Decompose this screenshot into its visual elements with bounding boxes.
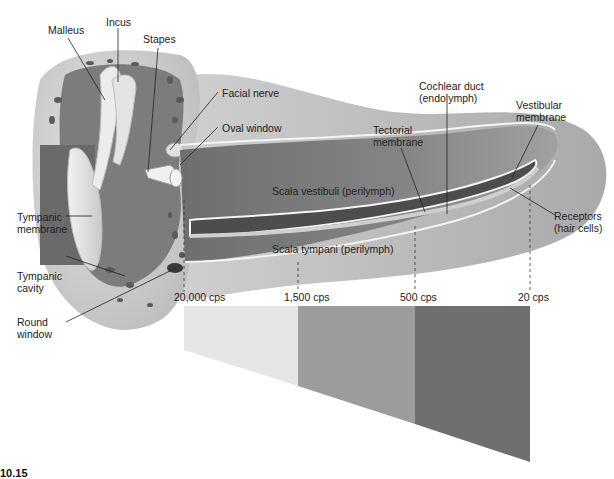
band-mid-frequency xyxy=(298,306,415,424)
label-vestibular-membrane-line2: membrane xyxy=(516,111,566,123)
label-cochlear-duct-line2: (endolymph) xyxy=(419,92,477,104)
label-tympanic-cavity-line2: cavity xyxy=(17,282,44,294)
band-high-frequency xyxy=(184,306,298,386)
label-tympanic-cavity-line1: Tympanic xyxy=(17,270,62,282)
label-tympanic-membrane-line2: membrane xyxy=(17,223,67,235)
label-round-window-line1: Round xyxy=(17,316,48,328)
label-facial-nerve: Facial nerve xyxy=(222,87,279,99)
label-oval-window: Oval window xyxy=(222,122,282,134)
label-vestibular-membrane-line1: Vestibular xyxy=(516,99,562,111)
label-tectorial-membrane-line1: Tectorial xyxy=(373,124,412,136)
label-freq-20: 20 cps xyxy=(518,291,549,303)
label-cochlear-duct-line1: Cochlear duct xyxy=(419,80,484,92)
label-round-window-line2: window xyxy=(17,328,52,340)
label-receptors-line2: (hair cells) xyxy=(554,222,602,234)
label-tympanic-membrane-line1: Tympanic xyxy=(17,211,62,223)
band-low-frequency xyxy=(415,306,530,462)
figure-caption-fragment: 10.15 xyxy=(0,467,28,479)
label-freq-500: 500 cps xyxy=(400,291,437,303)
label-stapes: Stapes xyxy=(143,33,176,45)
label-receptors-line1: Receptors xyxy=(554,210,602,222)
oval-window-shape xyxy=(170,169,182,187)
frequency-wedge xyxy=(184,306,530,462)
label-tectorial-membrane-line2: membrane xyxy=(373,136,423,148)
label-incus: Incus xyxy=(106,16,131,28)
label-malleus: Malleus xyxy=(48,24,84,36)
label-scala-vestibuli: Scala vestibuli (perilymph) xyxy=(272,185,395,197)
label-freq-20000: 20,000 cps xyxy=(174,291,225,303)
label-scala-tympani: Scala tympani (perilymph) xyxy=(272,243,393,255)
label-freq-1500: 1,500 cps xyxy=(284,291,330,303)
